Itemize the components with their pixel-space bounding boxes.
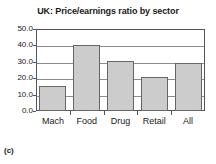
x-tick-label: Drug xyxy=(104,116,138,127)
x-tick-mark xyxy=(104,111,105,115)
y-tick-label: 50.0 xyxy=(0,25,33,33)
y-tick-label: 10.0 xyxy=(0,91,33,99)
x-tick-label: All xyxy=(171,116,205,127)
y-tick-label: 0.0 xyxy=(0,107,33,115)
gridline xyxy=(37,79,204,80)
x-tick-mark xyxy=(137,111,138,115)
x-axis-ticks xyxy=(36,111,205,115)
x-tick-label: Food xyxy=(70,116,104,127)
y-tick-label: 20.0 xyxy=(0,74,33,82)
figure-container: UK: Price/earnings ratio by sector 0.010… xyxy=(0,0,216,164)
gridline xyxy=(37,96,204,97)
x-tick-label: Mach xyxy=(36,116,70,127)
y-axis: 0.010.020.030.040.050.0 xyxy=(0,29,33,111)
figure-label: (c) xyxy=(4,146,14,155)
x-tick-mark xyxy=(171,111,172,115)
y-tick-label: 40.0 xyxy=(0,41,33,49)
x-axis: MachFoodDrugRetailAll xyxy=(36,116,205,130)
y-tick-label: 30.0 xyxy=(0,58,33,66)
x-tick-label: Retail xyxy=(137,116,171,127)
x-tick-mark xyxy=(70,111,71,115)
plot-area xyxy=(36,29,205,111)
chart-title: UK: Price/earnings ratio by sector xyxy=(0,6,216,16)
gridline xyxy=(37,46,204,47)
gridline xyxy=(37,63,204,64)
